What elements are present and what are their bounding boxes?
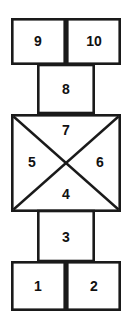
cell-7-label[interactable]: 7: [62, 122, 70, 138]
cell-1-label: 1: [34, 278, 42, 294]
court-canvas: 9 10 8 7 5 6 4 3 1 2: [0, 0, 132, 324]
cell-2-label: 2: [90, 278, 98, 294]
court-row-bottom: 1 2: [12, 262, 119, 309]
cell-6-label[interactable]: 6: [96, 154, 104, 170]
court-cell-8-group: 8: [38, 65, 93, 113]
court-square-group: 7 5 6 4: [12, 115, 119, 210]
cell-9-label: 9: [34, 33, 42, 49]
cell-8-label: 8: [62, 81, 70, 97]
court-row-top: 9 10: [12, 19, 119, 63]
court-cell-3-group: 3: [38, 211, 93, 261]
cell-5-label[interactable]: 5: [28, 154, 36, 170]
cell-3-label: 3: [62, 229, 70, 245]
hopscotch-court-diagram: 9 10 8 7 5 6 4 3 1 2: [0, 0, 132, 324]
cell-4-label[interactable]: 4: [62, 186, 70, 202]
cell-10-label: 10: [86, 33, 102, 49]
